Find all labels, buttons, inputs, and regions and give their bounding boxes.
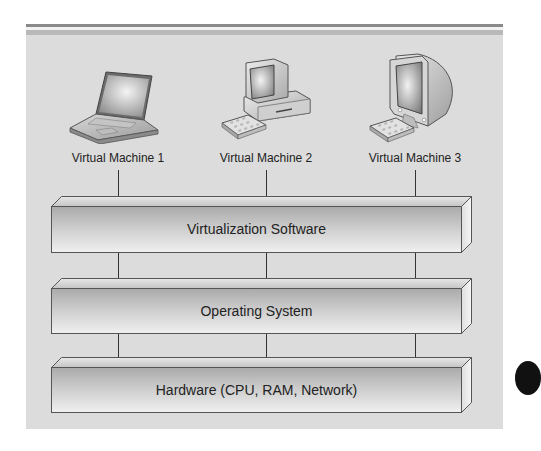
desktop-computer-icon [218, 55, 318, 145]
vm-label-2: Virtual Machine 2 [201, 151, 331, 165]
vm-label-3: Virtual Machine 3 [350, 151, 480, 165]
layer-operating-system: Operating System [51, 278, 472, 334]
vm-label-1: Virtual Machine 1 [53, 151, 183, 165]
layer-label-operating-system: Operating System [51, 303, 462, 319]
top-rule-band [26, 30, 503, 35]
layer-virtualization-software: Virtualization Software [51, 196, 472, 253]
layer-hardware: Hardware (CPU, RAM, Network) [51, 357, 472, 413]
layer-label-virtualization-software: Virtualization Software [51, 221, 462, 237]
layer-label-hardware: Hardware (CPU, RAM, Network) [51, 382, 462, 398]
crt-monitor-icon [366, 50, 466, 146]
laptop-icon [66, 68, 166, 144]
page-edge-marker [515, 361, 541, 395]
